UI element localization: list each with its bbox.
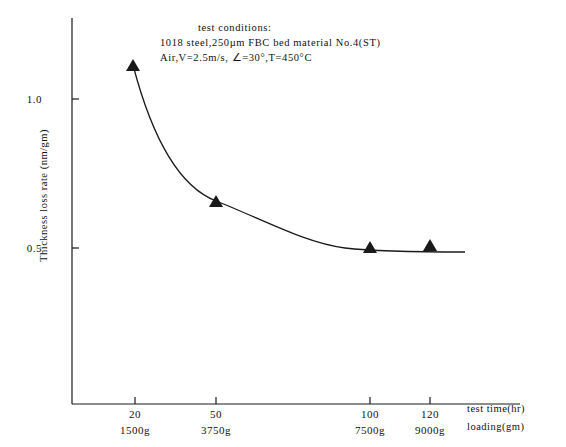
x-tick-label-1: 20 bbox=[105, 408, 165, 420]
data-point-marker bbox=[209, 195, 223, 207]
plot-area bbox=[0, 0, 566, 447]
x-tick-label-3: 100 bbox=[340, 408, 400, 420]
data-series-line bbox=[133, 65, 465, 252]
x-tick-label-2: 50 bbox=[186, 408, 246, 420]
x-tick-label-loading-2: 3750g bbox=[181, 424, 251, 436]
x-tick-label-loading-1: 1500g bbox=[100, 424, 170, 436]
data-point-marker bbox=[363, 241, 377, 253]
x-tick-label-4: 120 bbox=[400, 408, 460, 420]
x-axis-label-secondary: loading(gm) bbox=[467, 421, 524, 432]
data-point-marker bbox=[423, 239, 437, 251]
data-point-marker bbox=[126, 59, 140, 71]
x-axis-label: test time(hr) bbox=[467, 403, 525, 414]
chart-container: test conditions: 1018 steel,250µm FBC be… bbox=[0, 0, 566, 447]
x-tick-label-loading-4: 9000g bbox=[395, 424, 465, 436]
